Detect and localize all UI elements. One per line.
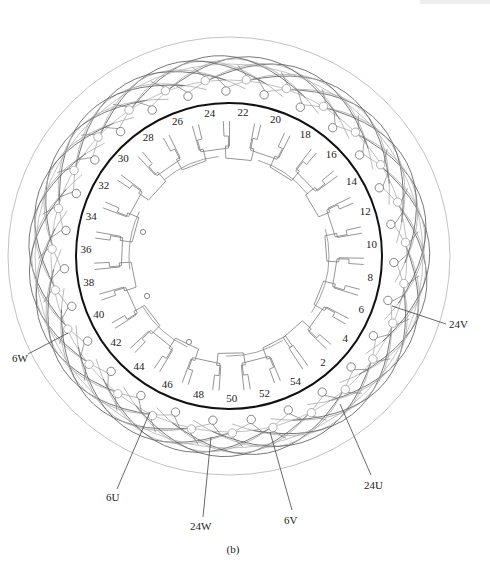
slot-label-34: 34 (86, 210, 98, 222)
terminal-circle (125, 106, 133, 114)
stator-tooth (198, 121, 229, 152)
slot-label-16: 16 (326, 148, 338, 160)
slot-label-22: 22 (238, 106, 249, 118)
slot-label-44: 44 (134, 360, 146, 372)
coil-arc (335, 125, 418, 282)
terminal-circle (228, 429, 236, 437)
terminal-circle (260, 91, 268, 99)
coil-arc (226, 74, 373, 169)
terminal-circle (400, 279, 408, 287)
coil-arc (35, 123, 114, 289)
slot-label-38: 38 (83, 276, 95, 288)
terminal-circle (369, 332, 377, 340)
terminal-lead (62, 308, 68, 320)
terminal-circle (161, 87, 169, 95)
leader-line-24U (340, 404, 371, 475)
terminal-circle (284, 406, 292, 414)
terminal-circle (242, 76, 250, 84)
stator-tooth (270, 136, 311, 181)
terminal-circle (329, 124, 337, 132)
terminal-lead (290, 414, 302, 420)
inner-marker (140, 229, 145, 234)
terminal-circle (64, 325, 72, 333)
slot-label-52: 52 (259, 387, 270, 399)
slot-label-48: 48 (193, 388, 205, 400)
inner-marker (186, 339, 191, 344)
terminal-circle (269, 423, 277, 431)
stator-winding-diagram: 2468101214161820222426283032343638404244… (0, 0, 490, 580)
stator-tooth (314, 281, 358, 319)
terminal-circle (114, 390, 122, 398)
slot-label-32: 32 (98, 179, 109, 191)
slot-label-40: 40 (93, 308, 105, 320)
coil-arc (58, 99, 168, 230)
terminal-circle (137, 391, 145, 399)
figure-caption: (b) (227, 543, 240, 556)
terminal-circle (209, 416, 217, 424)
stator-tooth (188, 358, 220, 390)
terminal-circle (307, 409, 315, 417)
slot-label-42: 42 (110, 336, 121, 348)
lead-label-6U: 6U (106, 491, 120, 503)
stator-teeth (94, 121, 364, 391)
stator-tooth (333, 259, 364, 290)
lead-label-6V: 6V (284, 514, 298, 526)
terminal-circle (68, 302, 76, 310)
stator-tooth (327, 203, 361, 237)
terminal-circle (72, 189, 80, 197)
terminal-circle (171, 408, 179, 416)
coil-arc (339, 224, 419, 383)
terminal-circle (375, 184, 383, 192)
terminal-circle (319, 102, 327, 110)
coil-arc (36, 211, 109, 374)
stator-tooth (94, 236, 122, 267)
stator-tooth (308, 307, 346, 345)
slot-label-54: 54 (290, 375, 302, 387)
terminal-lead (81, 343, 85, 356)
lead-label-6W: 6W (12, 352, 29, 364)
stator-tooth (115, 305, 160, 348)
terminal-circle (347, 363, 355, 371)
leader-line-24V (392, 306, 446, 324)
terminal-circle (387, 220, 395, 228)
slot-label-28: 28 (143, 131, 155, 143)
slot-label-6: 6 (359, 303, 365, 315)
slot-label-14: 14 (346, 175, 358, 187)
slot-label-24: 24 (204, 107, 216, 119)
terminal-circle (48, 245, 56, 253)
terminal-circle (401, 238, 409, 246)
slot-label-46: 46 (162, 378, 174, 390)
terminal-circle (91, 156, 99, 164)
terminal-circle (376, 161, 384, 169)
terminal-circle (70, 166, 78, 174)
terminal-lead (108, 374, 109, 388)
stator-tooth (251, 125, 285, 160)
slot-label-26: 26 (172, 115, 184, 127)
terminal-circle (318, 388, 326, 396)
coil-envelope (35, 64, 423, 448)
lead-label-24W: 24W (190, 520, 212, 532)
slot-label-30: 30 (118, 152, 130, 164)
terminal-circle (390, 258, 398, 266)
terminal-circle (389, 319, 397, 327)
slot-labels: 2468101214161820222426283032343638404244… (81, 106, 378, 403)
stator-tooth (263, 336, 303, 381)
terminal-circle (148, 106, 156, 114)
stator-tooth (160, 338, 199, 383)
terminal-circle (54, 204, 62, 212)
terminal-circle (296, 103, 304, 111)
stator-tooth (325, 233, 364, 262)
terminal-lead (383, 174, 388, 187)
terminal-lead (410, 231, 419, 242)
coil-arc (103, 379, 272, 452)
terminal-circle (84, 337, 92, 345)
slot-label-36: 36 (81, 243, 93, 255)
slot-label-12: 12 (360, 205, 371, 217)
coil-arc (36, 229, 118, 393)
slot-label-50: 50 (226, 392, 238, 404)
terminal-lead (334, 111, 335, 124)
terminal-circle (393, 198, 401, 206)
slot-label-18: 18 (300, 128, 312, 140)
slot-label-20: 20 (270, 113, 282, 125)
terminal-circle (62, 226, 70, 234)
